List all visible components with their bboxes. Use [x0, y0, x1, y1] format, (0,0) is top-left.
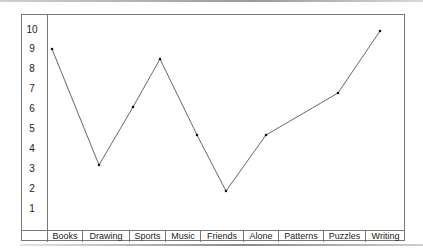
data-line: [52, 31, 380, 191]
data-point: [98, 164, 101, 167]
data-point: [159, 58, 162, 61]
data-point: [225, 190, 228, 193]
bottom-divider: [20, 244, 423, 246]
data-point: [337, 92, 340, 95]
data-point: [379, 30, 382, 33]
data-point: [51, 48, 54, 51]
data-point: [265, 134, 268, 137]
data-point: [196, 134, 199, 137]
data-point: [132, 106, 135, 109]
line-plot: [0, 0, 423, 248]
